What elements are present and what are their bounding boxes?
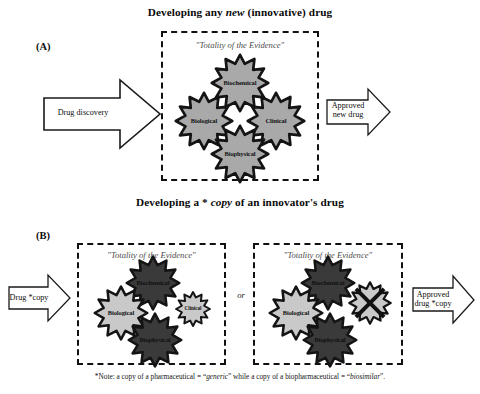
arrow-right-icon [42, 78, 162, 150]
figure-footnote: *Note: a copy of a pharmaceutical = “gen… [0, 372, 480, 381]
panel-a-gear-biophysical: Biophysical [210, 124, 270, 184]
arrow-right-icon [8, 274, 72, 322]
arrow-right-icon [412, 275, 476, 325]
panel-a-input-arrow: Drug discovery [42, 78, 162, 150]
panel-a-title-part1: Developing any [148, 6, 226, 18]
gear-icon [210, 124, 270, 184]
panel-b-output-arrow: Approved drug *copy [412, 275, 476, 325]
panel-b-title-part3: of an innovator's drug [232, 196, 344, 208]
gear-icon [127, 312, 183, 368]
footnote-term-biosimilar: biosimilar [350, 372, 380, 381]
panel-a-title-part3: (innovative) drug [245, 6, 333, 18]
panel-b-title-emphasis: copy [211, 196, 233, 208]
figure-canvas: Developing any new (innovative) drug (A)… [0, 0, 480, 394]
panel-a-label: (A) [36, 41, 51, 52]
panel-a-evidence-caption: "Totality of the Evidence" [161, 40, 319, 50]
panel-b-title-part1: Developing a * [136, 196, 211, 208]
panel-a-output-arrow: Approved new drug [326, 88, 392, 136]
panel-b-left-gear-biophysical: Biophysical [127, 312, 183, 368]
footnote-term-generic: generic [206, 372, 228, 381]
panel-b-right-gear-biophysical: Biophysical [302, 312, 358, 368]
footnote-part3: ” while a copy of a biopharmaceutical = … [228, 372, 350, 381]
panel-a-title: Developing any new (innovative) drug [0, 6, 480, 18]
footnote-part1: *Note: a copy of a pharmaceutical = “ [95, 372, 206, 381]
panel-a-title-emphasis: new [226, 6, 245, 18]
footnote-part5: ”. [380, 372, 385, 381]
arrow-right-icon [326, 88, 392, 136]
gear-icon [302, 312, 358, 368]
panel-b-label: (B) [36, 230, 50, 241]
panel-b-title: Developing a * copy of an innovator's dr… [0, 196, 480, 208]
panel-b-or-connector: or [231, 290, 251, 300]
panel-b-input-arrow: Drug *copy [8, 274, 72, 322]
